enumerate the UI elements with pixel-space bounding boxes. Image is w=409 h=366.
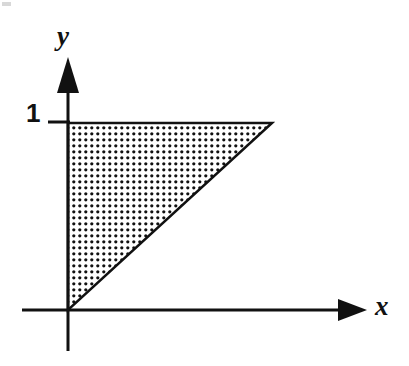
x-axis-label: x <box>375 293 389 320</box>
shaded-region-group <box>68 123 272 310</box>
arrow-right-icon <box>338 299 367 321</box>
y-axis-label: y <box>57 23 69 50</box>
arrow-up-icon <box>57 57 79 93</box>
y-tick-label-1: 1 <box>26 100 40 126</box>
figure-canvas: y x 1 <box>0 0 409 366</box>
diagram-svg <box>0 0 409 366</box>
